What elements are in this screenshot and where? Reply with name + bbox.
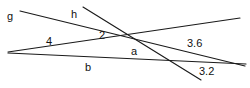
- label-3-2: 3.2: [199, 66, 214, 77]
- label-g: g: [7, 11, 13, 22]
- line-lower: [8, 53, 246, 64]
- label-a: a: [131, 46, 137, 57]
- line-h: [83, 7, 201, 80]
- label-2: 2: [99, 30, 105, 41]
- line-g: [20, 11, 245, 66]
- line-diagram-figure: g h 2 4 a b 3.6 3.2: [0, 0, 250, 88]
- label-b: b: [85, 62, 91, 73]
- line-upper: [8, 18, 240, 52]
- label-3-6: 3.6: [187, 38, 202, 49]
- label-h: h: [71, 9, 77, 20]
- label-4: 4: [46, 36, 52, 47]
